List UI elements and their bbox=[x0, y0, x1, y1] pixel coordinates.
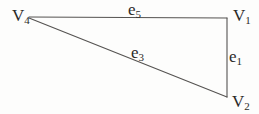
edge-label-e5-base: e bbox=[128, 0, 136, 19]
vertex-label-v1-base: V bbox=[233, 6, 246, 25]
triangle-graph-figure: V4 V1 V2 e5 e1 e3 bbox=[0, 0, 259, 114]
vertex-label-v4-subscript: 4 bbox=[24, 14, 30, 26]
vertex-label-v1-subscript: 1 bbox=[245, 14, 251, 26]
triangle-graph-svg: V4 V1 V2 e5 e1 e3 bbox=[0, 0, 259, 114]
edge-label-e3-subscript: 3 bbox=[139, 51, 145, 63]
edge-label-e1-subscript: 1 bbox=[237, 55, 243, 67]
vertex-label-v2-base: V bbox=[232, 92, 245, 111]
edge-label-e1-base: e bbox=[229, 47, 237, 66]
edge-label-e3-base: e bbox=[131, 43, 139, 62]
edge-label-e5-subscript: 5 bbox=[136, 8, 142, 20]
vertex-label-v4-base: V bbox=[12, 6, 25, 25]
vertex-label-v2-subscript: 2 bbox=[244, 100, 250, 112]
